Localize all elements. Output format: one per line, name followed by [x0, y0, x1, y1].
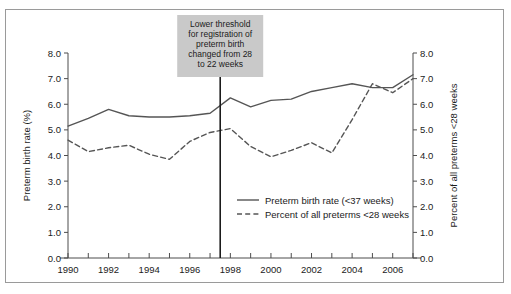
y-axis-right-title: Percent of all preterms <28 weeks: [448, 83, 459, 227]
y-axis-left-tick-label: 0.0: [48, 253, 61, 264]
x-axis-tick-label: 2002: [301, 264, 322, 275]
x-axis-tick-label: 1998: [220, 264, 241, 275]
y-axis-right-tick-label: 0.0: [420, 253, 433, 264]
y-axis-left-tick-label: 4.0: [48, 150, 61, 161]
x-axis-tick-label: 1994: [139, 264, 160, 275]
y-axis-left-title: Preterm birth rate (%): [21, 110, 32, 201]
y-axis-left-tick-label: 8.0: [48, 48, 61, 59]
annotation-line: changed from 28: [188, 49, 252, 59]
series-line-0: [68, 75, 413, 126]
y-axis-right-tick-label: 1.0: [420, 227, 433, 238]
x-axis-tick-label: 2006: [382, 264, 403, 275]
y-axis-right-tick-label: 6.0: [420, 99, 433, 110]
legend-label-0: Preterm birth rate (<37 weeks): [265, 195, 394, 206]
y-axis-left-tick-label: 1.0: [48, 227, 61, 238]
y-axis-right-tick-label: 4.0: [420, 150, 433, 161]
annotation-line: Lower threshold: [190, 19, 251, 29]
y-axis-right-tick-label: 7.0: [420, 73, 433, 84]
y-axis-right-tick-label: 3.0: [420, 176, 433, 187]
annotation-line: preterm birth: [196, 39, 244, 49]
x-axis-tick-label: 1990: [57, 264, 78, 275]
line-chart: 0.01.02.03.04.05.06.07.08.00.01.02.03.04…: [0, 0, 511, 294]
y-axis-right-tick-label: 5.0: [420, 124, 433, 135]
y-axis-left-tick-label: 3.0: [48, 176, 61, 187]
x-axis-tick-label: 2004: [342, 264, 363, 275]
series-line-1: [68, 79, 413, 160]
annotation-line: to 22 weeks: [198, 59, 243, 69]
y-axis-right-tick-label: 8.0: [420, 48, 433, 59]
y-axis-right-tick-label: 2.0: [420, 201, 433, 212]
annotation-line: for registration of: [188, 29, 252, 39]
y-axis-left-tick-label: 6.0: [48, 99, 61, 110]
chart-figure: 0.01.02.03.04.05.06.07.08.00.01.02.03.04…: [0, 0, 511, 294]
y-axis-left-tick-label: 7.0: [48, 73, 61, 84]
legend-label-1: Percent of all preterms <28 weeks: [265, 209, 409, 220]
x-axis-tick-label: 1996: [179, 264, 200, 275]
x-axis-tick-label: 2000: [260, 264, 281, 275]
x-axis-tick-label: 1992: [98, 264, 119, 275]
y-axis-left-tick-label: 2.0: [48, 201, 61, 212]
y-axis-left-tick-label: 5.0: [48, 124, 61, 135]
